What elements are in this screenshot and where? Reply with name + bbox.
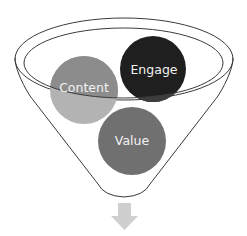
down-arrow-icon	[111, 203, 138, 230]
funnel-diagram: Content Engage Value	[0, 0, 247, 236]
value-label: Value	[115, 133, 150, 148]
engage-label: Engage	[130, 62, 177, 77]
content-label: Content	[59, 80, 109, 95]
